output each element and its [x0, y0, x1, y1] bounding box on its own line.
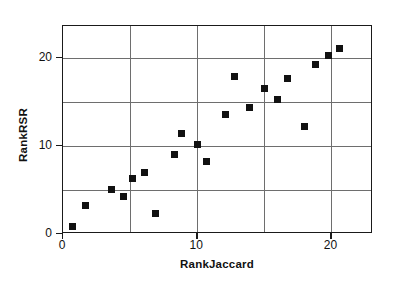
data-point: [301, 123, 308, 130]
data-point: [203, 158, 210, 165]
scatter-plot-figure: 01020 01020 RankJaccard RankRSR: [0, 0, 419, 283]
y-tick-label: 10: [39, 138, 52, 152]
x-tick-label: 10: [190, 238, 203, 252]
data-point: [261, 85, 268, 92]
y-axis-title: RankRSR: [17, 90, 29, 180]
data-point: [325, 52, 332, 59]
data-point: [108, 186, 115, 193]
data-point: [152, 210, 159, 217]
data-point: [222, 111, 229, 118]
y-tick-mark: [56, 57, 62, 58]
x-axis-title: RankJaccard: [62, 258, 372, 270]
data-point: [284, 75, 291, 82]
data-point: [82, 202, 89, 209]
data-point: [178, 130, 185, 137]
data-point: [194, 141, 201, 148]
data-point: [129, 175, 136, 182]
data-points-layer: [63, 26, 371, 232]
data-point: [336, 45, 343, 52]
x-tick-label: 20: [324, 238, 337, 252]
y-tick-mark: [56, 233, 62, 234]
y-tick-label: 0: [45, 226, 52, 240]
data-point: [69, 223, 76, 230]
data-point: [312, 61, 319, 68]
x-tick-label: 0: [59, 238, 66, 252]
data-point: [246, 104, 253, 111]
data-point: [141, 169, 148, 176]
y-tick-label: 20: [39, 50, 52, 64]
plot-area: [62, 25, 372, 233]
y-tick-mark: [56, 145, 62, 146]
data-point: [171, 151, 178, 158]
data-point: [231, 73, 238, 80]
data-point: [274, 96, 281, 103]
data-point: [120, 193, 127, 200]
